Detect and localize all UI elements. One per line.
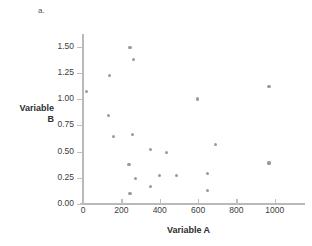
data-point (206, 172, 209, 175)
x-tick-label: 1000 (255, 206, 295, 218)
x-tick-label: 400 (140, 206, 180, 218)
y-tick-label-text: 1.00 (44, 94, 74, 103)
x-tick-label: 0 (63, 206, 103, 218)
data-point (149, 148, 152, 151)
x-tick-label-text: 400 (140, 206, 180, 215)
data-point (267, 161, 270, 164)
data-point (267, 85, 270, 88)
plot-area (83, 36, 294, 204)
x-tick-label: 800 (216, 206, 256, 218)
y-tick-label: 0.75 (42, 120, 74, 130)
data-point (132, 58, 135, 61)
y-axis-title-line: Variable (2, 103, 54, 114)
data-point (214, 143, 217, 146)
y-tick-label: 0.25 (42, 173, 74, 183)
x-tick-label-text: 200 (101, 206, 141, 215)
x-axis-title: Variable A (83, 225, 294, 235)
data-point (127, 163, 130, 166)
x-tick-label-text: 1000 (255, 206, 295, 215)
y-tick-label: 0.50 (42, 147, 74, 157)
y-tick-label-text: 0.50 (44, 147, 74, 156)
x-tick-label-text: 600 (178, 206, 218, 215)
y-tick-label-text: 1.25 (44, 68, 74, 77)
panel-letter: a. (38, 6, 45, 15)
x-tick-label-text: 800 (216, 206, 256, 215)
x-tick-label: 200 (101, 206, 141, 218)
x-tick-label: 600 (178, 206, 218, 218)
data-point (128, 192, 131, 195)
scatter-plot-figure: a. VariableB 0.000.250.500.751.001.251.5… (0, 0, 312, 246)
y-tick-label: 1.50 (42, 42, 74, 52)
y-tick-label: 1.25 (42, 68, 74, 78)
data-point (196, 97, 199, 100)
y-tick-label-text: 0.25 (44, 173, 74, 182)
data-point (149, 185, 152, 188)
x-tick-label-text: 0 (63, 206, 103, 215)
y-tick-label-text: 1.50 (44, 42, 74, 51)
data-point (128, 46, 131, 49)
y-tick-label-text: 0.75 (44, 120, 74, 129)
y-tick-label: 1.00 (42, 94, 74, 104)
